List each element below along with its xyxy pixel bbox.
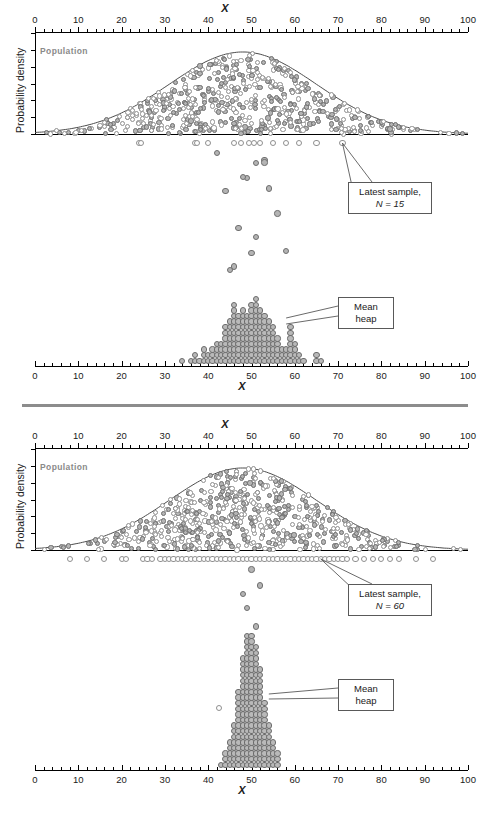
callout-mean-heap-bottom-line1: Mean bbox=[354, 683, 378, 694]
callout-mean-heap-bottom: Mean heap bbox=[338, 679, 394, 711]
callout-mean-heap-top: Mean heap bbox=[338, 297, 394, 329]
panel-n60: X Probability density Population 0102030… bbox=[0, 416, 486, 814]
callout-latest-sample-top-line2: N = 15 bbox=[376, 198, 404, 209]
callout-latest-sample-bottom-line2: N = 60 bbox=[376, 600, 404, 611]
callout-latest-sample-bottom-line1: Latest sample, bbox=[359, 588, 421, 599]
figure-root: X Probability density Population 0102030… bbox=[0, 0, 486, 814]
panel-n15: X Probability density Population 0102030… bbox=[0, 0, 486, 392]
callout-latest-sample-top: Latest sample, N = 15 bbox=[348, 182, 432, 214]
callout-latest-sample-bottom: Latest sample, N = 60 bbox=[348, 584, 432, 616]
panel-divider bbox=[22, 404, 468, 407]
callout-mean-heap-top-line1: Mean bbox=[354, 301, 378, 312]
callout-mean-heap-bottom-line2: heap bbox=[355, 695, 376, 706]
callout-mean-heap-top-line2: heap bbox=[355, 313, 376, 324]
callout-latest-sample-top-line1: Latest sample, bbox=[359, 186, 421, 197]
